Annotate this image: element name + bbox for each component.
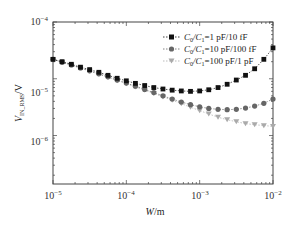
data-point xyxy=(179,99,184,104)
data-point xyxy=(252,66,257,71)
data-point xyxy=(206,112,212,117)
data-point xyxy=(188,89,193,94)
svg-text:C0/C1=100 pF/1 pF: C0/C1=100 pF/1 pF xyxy=(184,56,254,67)
data-point xyxy=(106,73,111,78)
y-tick-labels: 10−4 10−5 10−6 xyxy=(31,15,49,147)
data-point xyxy=(124,78,129,83)
chart-canvas: 10−4 10−5 10−6 10−5 10−4 10−3 10−2 W/m V… xyxy=(0,0,295,228)
x-tick-1e-5: 10−5 xyxy=(44,189,62,201)
data-point xyxy=(252,103,257,108)
data-point xyxy=(160,93,165,98)
data-point xyxy=(225,107,230,112)
svg-text:C0/C1=10 pF/100 fF: C0/C1=10 pF/100 fF xyxy=(184,44,257,55)
legend: C0/C1=1 pF/10 fF C0/C1=10 pF/100 fF C0/C… xyxy=(163,32,257,67)
svg-text:C0/C1=1 pF/10 fF: C0/C1=1 pF/10 fF xyxy=(184,32,248,43)
series-triangle-down xyxy=(50,57,276,129)
data-point xyxy=(224,117,230,122)
y-tick-1e-5: 10−5 xyxy=(31,86,49,98)
data-point xyxy=(215,107,220,112)
legend-item-3: C0/C1=100 pF/1 pF xyxy=(163,56,254,67)
circle-marker-icon xyxy=(169,46,174,51)
data-point xyxy=(225,82,230,87)
data-point xyxy=(151,90,156,95)
data-point xyxy=(60,59,65,64)
data-point xyxy=(179,89,184,94)
x-tick-1e-4: 10−4 xyxy=(117,189,135,201)
y-tick-1e-6: 10−6 xyxy=(31,135,49,147)
data-point xyxy=(243,73,248,78)
data-point xyxy=(234,107,239,112)
data-point xyxy=(261,101,266,106)
data-point xyxy=(234,78,239,83)
data-point xyxy=(206,87,211,92)
y-tick-1e-4: 10−4 xyxy=(31,15,49,27)
data-point xyxy=(271,45,276,50)
square-marker-icon xyxy=(169,35,174,40)
data-point xyxy=(216,85,221,90)
data-point xyxy=(51,57,56,62)
data-point xyxy=(69,62,74,67)
data-point xyxy=(243,105,248,110)
x-axis-label: W/m xyxy=(146,206,165,217)
data-point xyxy=(197,89,202,94)
data-point xyxy=(96,70,101,75)
legend-item-1: C0/C1=1 pF/10 fF xyxy=(163,32,248,43)
data-point xyxy=(170,96,175,101)
data-point xyxy=(215,115,221,120)
x-tick-labels: 10−5 10−4 10−3 10−2 xyxy=(44,189,282,201)
y-axis-label: VIN_RMS/V xyxy=(13,83,25,122)
x-tick-1e-2: 10−2 xyxy=(264,189,282,201)
data-point xyxy=(197,104,202,109)
data-point xyxy=(270,96,275,101)
data-point xyxy=(142,83,147,88)
data-point xyxy=(261,57,266,62)
legend-item-2: C0/C1=10 pF/100 fF xyxy=(163,44,257,55)
data-point xyxy=(115,76,120,81)
data-point xyxy=(78,65,83,70)
data-point xyxy=(206,106,211,111)
data-point xyxy=(188,102,193,107)
x-tick-1e-3: 10−3 xyxy=(191,189,209,201)
data-point xyxy=(151,85,156,90)
data-point xyxy=(87,67,92,72)
data-point xyxy=(170,88,175,93)
data-point xyxy=(133,81,138,86)
data-point xyxy=(161,87,166,92)
